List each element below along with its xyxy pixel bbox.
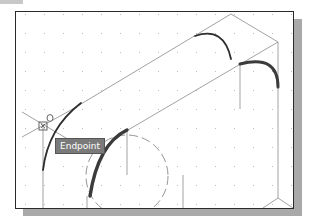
cursor-pick-icon (47, 115, 53, 122)
drawing-viewport[interactable]: Endpoint (15, 11, 294, 209)
top-tab (0, 0, 23, 4)
drawing-canvas[interactable] (16, 12, 293, 208)
osnap-tooltip: Endpoint (55, 138, 105, 154)
grid-dots (16, 12, 293, 208)
